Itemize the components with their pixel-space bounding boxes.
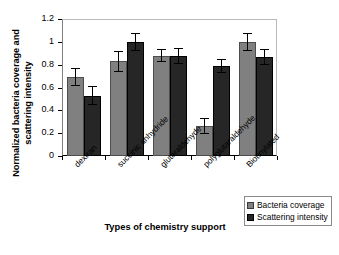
legend-label-bacteria-coverage: Bacteria coverage [257,200,325,210]
x-axis-tick-mark [105,156,106,160]
bar [110,61,127,156]
x-axis-tick-mark [191,156,192,160]
y-axis-title-line1: Normalized bacteria coverage and [11,29,21,177]
bar [67,77,84,156]
error-bar [239,33,256,51]
bar [239,42,256,156]
y-axis-title: Normalized bacteria coverage and scatter… [2,8,42,198]
y-axis-tick-label: 0.8 [41,59,54,70]
error-bar [67,68,84,86]
y-axis-tick-label: 0.6 [41,82,54,93]
bars-layer [62,19,277,156]
y-axis-tick-label: 0 [49,150,54,161]
y-axis-tick-label: 1.2 [41,13,54,24]
legend-item-scattering-intensity: Scattering intensity [247,211,328,223]
error-bar [153,49,170,63]
y-axis-tick-label: 0.4 [41,104,54,115]
bar-chart: Normalized bacteria coverage and scatter… [0,0,339,255]
x-axis-tick-mark [62,156,63,160]
legend-swatch-icon-scattering-intensity [247,214,254,221]
chart-legend: Bacteria coverage Scattering intensity [244,196,332,226]
bar-group [62,19,105,156]
x-axis-tick-mark [234,156,235,160]
legend-swatch-icon-bacteria-coverage [247,202,254,209]
legend-item-bacteria-coverage: Bacteria coverage [247,199,328,211]
x-axis-title: Types of chemistry support [80,222,250,232]
legend-label-scattering-intensity: Scattering intensity [257,212,328,222]
y-axis-tick-label: 1 [49,36,54,47]
error-bar [110,51,127,72]
error-bar [170,48,187,64]
error-bar [213,59,230,73]
bar [153,56,170,156]
error-bar [127,33,144,51]
x-axis-tick-mark [148,156,149,160]
error-bar [256,49,273,65]
x-axis-tick-mark [277,156,278,160]
y-axis-title-line2: scattering intensity [22,29,34,177]
error-bar [84,86,101,104]
y-axis-tick-label: 0.2 [41,127,54,138]
